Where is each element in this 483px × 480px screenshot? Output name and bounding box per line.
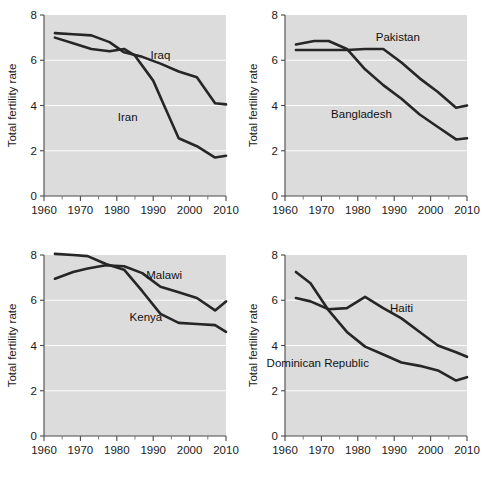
- x-tick-label-1980: 1980: [345, 204, 371, 216]
- y-tick-label-2: 2: [272, 145, 278, 157]
- x-tick-label-1970: 1970: [68, 204, 94, 216]
- y-tick-label-0: 0: [31, 430, 37, 442]
- y-axis-title: Total fertility rate: [6, 304, 18, 388]
- x-tick-label-2010: 2010: [213, 204, 239, 216]
- series-label-kenya: Kenya: [130, 311, 163, 323]
- figure-small-multiples-fertility: 02468196019701980199020002010Total ferti…: [0, 0, 483, 480]
- x-tick-label-1990: 1990: [381, 444, 407, 456]
- y-tick-label-8: 8: [31, 249, 37, 261]
- y-axis-title: Total fertility rate: [247, 64, 259, 148]
- x-tick-label-1980: 1980: [104, 444, 130, 456]
- x-tick-label-1980: 1980: [345, 444, 371, 456]
- x-tick-label-1960: 1960: [272, 444, 298, 456]
- x-tick-label-1970: 1970: [309, 444, 335, 456]
- x-tick-label-1970: 1970: [309, 204, 335, 216]
- chart-panel-bottom-left: 02468196019701980199020002010Total ferti…: [0, 240, 241, 480]
- y-tick-label-2: 2: [272, 385, 278, 397]
- x-tick-label-2010: 2010: [454, 444, 480, 456]
- x-tick-label-1960: 1960: [272, 204, 298, 216]
- x-tick-label-2000: 2000: [418, 444, 444, 456]
- y-axis-title: Total fertility rate: [247, 304, 259, 388]
- chart-panel-bottom-right: 02468196019701980199020002010Total ferti…: [241, 240, 482, 480]
- y-tick-label-4: 4: [272, 100, 279, 112]
- x-tick-label-2000: 2000: [418, 204, 444, 216]
- series-label-pakistan: Pakistan: [376, 31, 420, 43]
- series-label-iraq: Iraq: [151, 49, 171, 61]
- x-tick-label-1990: 1990: [140, 444, 166, 456]
- y-tick-label-0: 0: [272, 190, 278, 202]
- y-tick-label-2: 2: [31, 385, 37, 397]
- x-tick-label-1960: 1960: [31, 204, 57, 216]
- x-tick-label-1970: 1970: [68, 444, 94, 456]
- series-label-bangladesh: Bangladesh: [331, 108, 392, 120]
- chart-panel-top-right: 02468196019701980199020002010Total ferti…: [241, 0, 482, 240]
- x-tick-label-1980: 1980: [104, 204, 130, 216]
- x-tick-label-2010: 2010: [454, 204, 480, 216]
- y-tick-label-6: 6: [272, 294, 278, 306]
- series-label-iran: Iran: [118, 111, 138, 123]
- chart-panel-top-left: 02468196019701980199020002010Total ferti…: [0, 0, 241, 240]
- y-tick-label-0: 0: [31, 190, 37, 202]
- series-label-malawi: Malawi: [146, 269, 182, 281]
- series-label-haiti: Haiti: [390, 302, 413, 314]
- x-tick-label-1990: 1990: [381, 204, 407, 216]
- y-tick-label-8: 8: [272, 9, 278, 21]
- y-axis-title: Total fertility rate: [6, 64, 18, 148]
- y-tick-label-4: 4: [31, 100, 38, 112]
- y-tick-label-6: 6: [272, 54, 278, 66]
- y-tick-label-0: 0: [272, 430, 278, 442]
- y-tick-label-6: 6: [31, 54, 37, 66]
- x-tick-label-1990: 1990: [140, 204, 166, 216]
- series-label-dominican-republic: Dominican Republic: [267, 357, 370, 369]
- y-tick-label-6: 6: [31, 294, 37, 306]
- y-tick-label-4: 4: [272, 340, 279, 352]
- x-tick-label-2010: 2010: [213, 444, 239, 456]
- x-tick-label-1960: 1960: [31, 444, 57, 456]
- x-tick-label-2000: 2000: [177, 444, 203, 456]
- y-tick-label-4: 4: [31, 340, 38, 352]
- y-tick-label-8: 8: [272, 249, 278, 261]
- y-tick-label-2: 2: [31, 145, 37, 157]
- y-tick-label-8: 8: [31, 9, 37, 21]
- x-tick-label-2000: 2000: [177, 204, 203, 216]
